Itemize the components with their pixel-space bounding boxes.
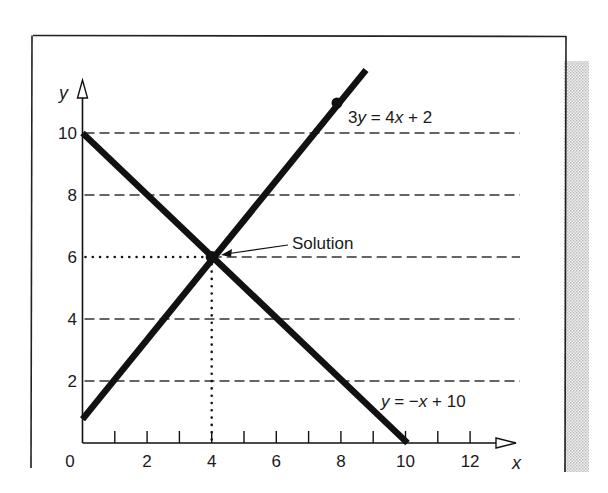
y-tick-label: 8: [68, 186, 77, 205]
x-tick-label: 4: [207, 452, 216, 471]
y-tick-label: 2: [68, 372, 77, 391]
y-axis-arrow-icon: [78, 80, 88, 98]
x-tick-label: 10: [396, 452, 415, 471]
solution-label: Solution: [292, 234, 353, 253]
side-shade-panel: [564, 61, 589, 472]
y-tick-label: 10: [58, 124, 77, 143]
equation-label-line2: y = −x + 10: [380, 392, 466, 411]
solution-point: [206, 251, 218, 263]
x-tick-label: 12: [461, 452, 480, 471]
x-tick-label: 8: [336, 452, 345, 471]
line1-marker-dot: [332, 98, 343, 109]
figure-frame: [31, 36, 589, 473]
y-tick-label: 6: [68, 248, 77, 267]
solution-arrow-line: [226, 245, 288, 254]
plot-area: 024681012246810yxSolution3y = 4x + 2y = …: [57, 70, 522, 473]
equation-label-line1: 3y = 4x + 2: [348, 108, 432, 127]
x-tick-label: 6: [272, 452, 281, 471]
x-axis-label: x: [511, 453, 522, 473]
x-tick-label: 0: [65, 452, 74, 471]
y-tick-label: 4: [68, 310, 77, 329]
y-axis-label: y: [57, 83, 69, 103]
linear-system-graph: 024681012246810yxSolution3y = 4x + 2y = …: [0, 0, 608, 493]
x-tick-label: 2: [142, 452, 151, 471]
x-axis-arrow-icon: [496, 438, 516, 448]
line-y-eq-neg-x-plus-10: [83, 133, 408, 443]
